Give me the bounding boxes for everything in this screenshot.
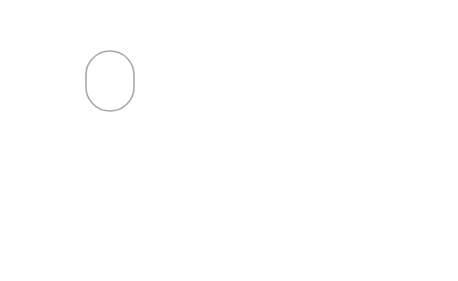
cell-f-plus xyxy=(86,51,134,111)
bacterial-conjugation-diagram xyxy=(0,0,458,281)
